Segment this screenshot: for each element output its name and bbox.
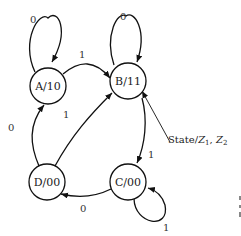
state-a-label: A/10	[34, 80, 61, 93]
transition-a-to-b	[63, 64, 110, 78]
label-a-self: 0	[30, 14, 36, 25]
state-c: C/00	[110, 164, 146, 200]
legend-text: State/Z1, Z2	[168, 134, 227, 147]
state-b-label: B/11	[115, 75, 141, 88]
label-c-to-d: 0	[80, 203, 86, 214]
label-b-self: 0	[120, 11, 126, 22]
label-d-to-a: 0	[8, 122, 14, 133]
label-a-to-b: 1	[79, 49, 85, 60]
state-diagram: 0 1 0 1 1 0 0 1 A/10 B/11 C/00 D/00 Stat…	[0, 0, 241, 236]
legend-pointer	[142, 91, 170, 142]
edge-artifact	[239, 205, 241, 208]
transition-b-to-c	[137, 98, 145, 163]
edge-artifact	[239, 196, 241, 200]
state-b: B/11	[110, 63, 146, 99]
state-d-label: D/00	[34, 176, 61, 189]
edge-artifact	[239, 212, 241, 217]
label-b-to-c: 1	[148, 149, 154, 160]
transition-d-to-b	[55, 93, 112, 166]
transition-d-to-a	[32, 105, 44, 166]
state-d: D/00	[29, 164, 65, 200]
state-c-label: C/00	[115, 176, 141, 189]
label-c-self: 1	[163, 222, 169, 233]
transition-c-to-d	[61, 189, 111, 196]
transition-b-self	[111, 15, 142, 65]
label-d-to-b: 1	[63, 109, 69, 120]
state-a: A/10	[30, 68, 66, 104]
